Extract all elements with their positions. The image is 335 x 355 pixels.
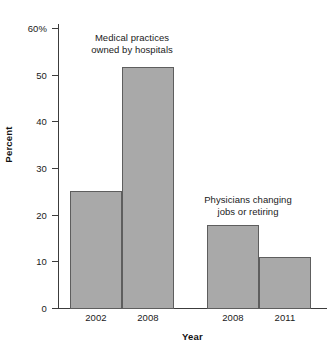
bar-physicians-2008 <box>207 225 259 309</box>
y-tick-mark-50 <box>52 75 58 76</box>
bar-medical-practices-2002 <box>70 191 122 309</box>
bar-physicians-2011 <box>259 257 311 309</box>
y-tick-mark-0 <box>52 308 58 309</box>
x-tick-label-physicians-2008: 2008 <box>207 313 259 323</box>
annotation-medical-practices-line1: Medical practices <box>72 32 192 44</box>
y-tick-mark-20 <box>52 215 58 216</box>
y-tick-label-10: 10 <box>0 257 47 267</box>
x-axis-title: Year <box>58 331 327 342</box>
annotation-medical-practices: Medical practices owned by hospitals <box>72 32 192 55</box>
y-tick-mark-60 <box>52 28 58 29</box>
y-tick-mark-40 <box>52 121 58 122</box>
x-tick-label-medical-2002: 2002 <box>70 313 122 323</box>
annotation-medical-practices-line2: owned by hospitals <box>72 44 192 56</box>
y-tick-label-20: 20 <box>0 211 47 221</box>
y-axis-title: Percent <box>3 115 14 175</box>
x-tick-label-medical-2008: 2008 <box>122 313 174 323</box>
x-tick-label-physicians-2011: 2011 <box>259 313 311 323</box>
y-tick-label-60: 60% <box>0 24 47 34</box>
annotation-physicians-changing-line1: Physicians changing <box>190 194 306 206</box>
annotation-physicians-changing-line2: jobs or retiring <box>190 206 306 218</box>
y-tick-label-0: 0 <box>0 304 47 314</box>
annotation-physicians-changing: Physicians changing jobs or retiring <box>190 194 306 217</box>
bar-medical-practices-2008 <box>122 67 174 309</box>
y-tick-mark-30 <box>52 168 58 169</box>
y-tick-mark-10 <box>52 261 58 262</box>
y-axis-line <box>58 24 59 309</box>
y-tick-label-50: 50 <box>0 71 47 81</box>
bar-chart-figure: 60% 50 40 30 20 10 0 2002 2008 2008 2011… <box>0 0 335 355</box>
